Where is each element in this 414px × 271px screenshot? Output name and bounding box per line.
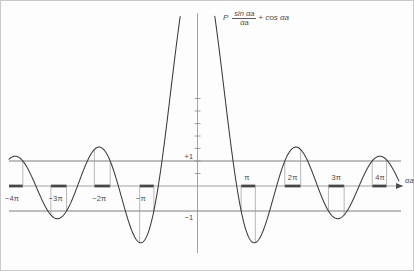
formula-lhs: P (223, 13, 228, 22)
x-tick-label-2: −2π (92, 195, 106, 203)
x-tick-label-1: −3π (48, 195, 62, 203)
x-axis-arrowhead (396, 183, 403, 189)
band-edge-droplines (23, 150, 387, 243)
figure-panel: P sin αa αa + cos αa +1 −1 αa −4π−3π−2π−… (0, 0, 414, 271)
x-tick-label-7: 4π (375, 174, 385, 182)
formula-rhs: cos αa (265, 13, 289, 22)
x-axis-label: αa (405, 177, 414, 185)
x-tick-label-3: −π (136, 195, 146, 203)
formula-fraction: sin αa αa (232, 10, 256, 26)
y-label-minus-one: −1 (185, 214, 194, 222)
x-tick-label-4: π (244, 174, 249, 182)
function-curve (9, 16, 399, 243)
formula-numerator: sin αa (232, 10, 256, 18)
y-label-plus-one: +1 (185, 153, 194, 161)
x-tick-label-5: 2π (288, 174, 298, 182)
formula-operator: + (258, 13, 263, 22)
x-tick-label-6: 3π (332, 174, 342, 182)
plot-canvas (1, 1, 414, 271)
plot-formula: P sin αa αa + cos αa (223, 10, 289, 26)
x-tick-label-0: −4π (5, 195, 19, 203)
formula-denominator: αa (232, 18, 256, 27)
